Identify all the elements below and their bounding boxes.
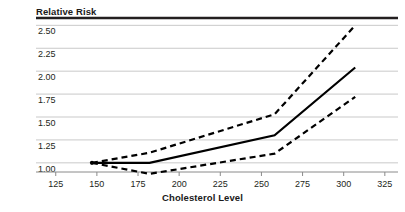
chart-plot-area: 1.001.251.501.752.002.252.50 12515017520… [0,0,405,212]
y-axis-tick-label: 2.50 [38,26,56,36]
x-axis-tick-labels: 125150175200225250275300325 [48,179,392,189]
y-axis-tick-label: 2.25 [38,49,56,59]
x-axis-tick-label: 300 [336,179,351,189]
reference-point-marker [90,161,94,165]
y-axis-tick-label: 1.75 [38,95,56,105]
x-axis-tick-label: 275 [295,179,310,189]
x-axis-tick-label: 200 [172,179,187,189]
x-axis-tick-label: 150 [89,179,104,189]
x-axis-tick-marks [56,172,385,176]
data-series-group [90,25,355,174]
gridlines-group [36,25,398,163]
y-axis-tick-label: 2.00 [38,72,56,82]
x-axis-tick-label: 175 [131,179,146,189]
x-axis-tick-label: 125 [48,179,63,189]
relative-risk-chart-figure: Relative Risk 1.001.251.501.752.002.252.… [0,0,405,212]
x-axis-tick-label: 225 [213,179,228,189]
data-series-line [92,68,355,163]
x-axis-tick-label: 250 [254,179,269,189]
y-axis-tick-label: 1.25 [38,141,56,151]
y-axis-tick-label: 1.50 [38,118,56,128]
x-axis-title: Cholesterol Level [0,192,405,203]
x-axis-tick-label: 325 [377,179,392,189]
y-axis-tick-labels: 1.001.251.501.752.002.252.50 [38,26,56,174]
